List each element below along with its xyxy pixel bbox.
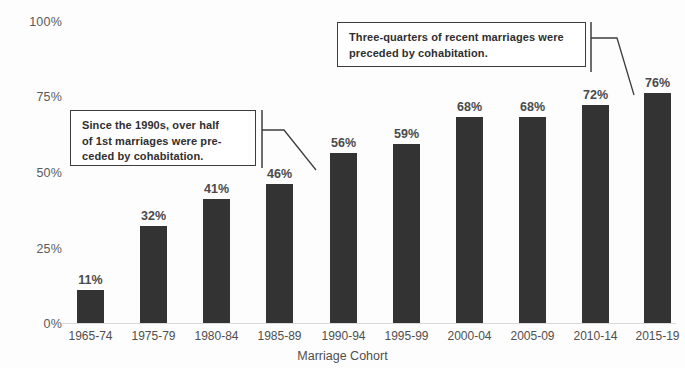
- bar-chart: 100% 75% 50% 25% 0% 11% 1965-74 32% 1975…: [0, 0, 685, 368]
- bar-group-1995-99: 59% 1995-99: [393, 144, 420, 323]
- annotation-1990s-line-2: of 1st marriages were pre-: [82, 134, 245, 150]
- bar-value-label-1980-84: 41%: [189, 182, 245, 196]
- annotation-three-quarters-line-2: preceded by cohabitation.: [349, 46, 575, 62]
- bar-2005-09: [519, 117, 546, 323]
- annotation-1990s-leader-line: [258, 108, 328, 178]
- x-tick-label-1980-84: 1980-84: [182, 329, 252, 343]
- bar-group-1985-89: 46% 1985-89: [266, 184, 293, 323]
- bar-1995-99: [393, 144, 420, 323]
- x-tick-label-2010-14: 2010-14: [561, 329, 631, 343]
- bar-1980-84: [203, 199, 230, 323]
- bar-2000-04: [456, 117, 483, 323]
- x-tick-label-1985-89: 1985-89: [245, 329, 315, 343]
- bar-group-1975-79: 32% 1975-79: [140, 226, 167, 323]
- bar-1975-79: [140, 226, 167, 323]
- x-tick-label-1975-79: 1975-79: [119, 329, 189, 343]
- x-tick-label-1990-94: 1990-94: [309, 329, 379, 343]
- bar-value-label-1995-99: 59%: [379, 127, 435, 141]
- bar-2015-19: [644, 93, 671, 323]
- annotation-three-quarters-leader-line: [588, 20, 648, 100]
- bar-value-label-2000-04: 68%: [442, 100, 498, 114]
- bar-value-label-1975-79: 32%: [126, 209, 182, 223]
- bar-group-1990-94: 56% 1990-94: [330, 153, 357, 323]
- bar-group-2005-09: 68% 2005-09: [519, 117, 546, 323]
- x-tick-label-2015-19: 2015-19: [623, 329, 685, 343]
- bar-group-2010-14: 72% 2010-14: [582, 105, 609, 323]
- x-tick-label-1965-74: 1965-74: [56, 329, 126, 343]
- annotation-1990s-line-3: ceded by cohabitation.: [82, 149, 245, 165]
- x-axis-title: Marriage Cohort: [0, 349, 685, 363]
- x-tick-label-2000-04: 2000-04: [435, 329, 505, 343]
- x-tick-label-1995-99: 1995-99: [372, 329, 442, 343]
- annotation-three-quarters-line-1: Three-quarters of recent marriages were: [349, 30, 575, 46]
- annotation-callout-1990s: Since the 1990s, over half of 1st marria…: [70, 110, 256, 166]
- annotation-1990s-line-1: Since the 1990s, over half: [82, 118, 245, 134]
- bar-value-label-2005-09: 68%: [505, 100, 561, 114]
- x-tick-label-2005-09: 2005-09: [498, 329, 568, 343]
- bar-1985-89: [266, 184, 293, 323]
- bar-1990-94: [330, 153, 357, 323]
- bar-group-1965-74: 11% 1965-74: [77, 290, 104, 323]
- bar-group-2015-19: 76% 2015-19: [644, 93, 671, 323]
- annotation-callout-three-quarters: Three-quarters of recent marriages were …: [337, 22, 586, 67]
- bar-group-1980-84: 41% 1980-84: [203, 199, 230, 323]
- bar-value-label-1965-74: 11%: [63, 273, 119, 287]
- bar-group-2000-04: 68% 2000-04: [456, 117, 483, 323]
- bar-1965-74: [77, 290, 104, 323]
- bar-2010-14: [582, 105, 609, 323]
